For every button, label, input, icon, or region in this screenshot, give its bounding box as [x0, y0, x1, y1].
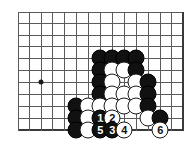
move-number-label: 4: [121, 125, 127, 136]
star-point: [39, 80, 44, 85]
move-stone-white-6[interactable]: 6: [152, 122, 169, 139]
move-number-label: 6: [157, 125, 163, 136]
grid-line-vertical: [18, 12, 19, 131]
grid-line-vertical: [171, 12, 172, 131]
grid-line-vertical: [29, 12, 30, 131]
grid-line-vertical: [41, 12, 42, 131]
move-stone-white-4[interactable]: 4: [116, 122, 133, 139]
move-number-label: 5: [97, 125, 103, 136]
move-number-label: 3: [109, 125, 115, 136]
go-board-diagram: 125346: [0, 0, 195, 154]
grid-line-vertical: [52, 12, 53, 131]
grid-line-vertical: [64, 12, 65, 131]
board-edge-line-right: [182, 12, 184, 131]
